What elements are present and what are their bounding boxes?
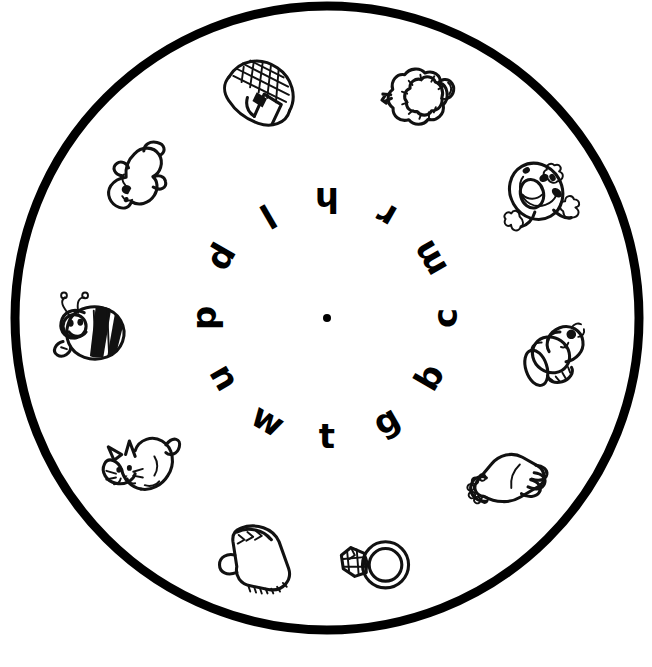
picture-lamb: [366, 39, 477, 150]
spinner-wheel[interactable]: hrmcbgtwndpl: [0, 0, 652, 667]
cat-icon: [91, 418, 187, 514]
letter-c: c: [425, 298, 465, 338]
ring-icon: [326, 513, 422, 609]
picture-ring: [326, 513, 422, 609]
letter-h: h: [307, 180, 347, 220]
center-pivot-dot: [323, 314, 331, 322]
letter-t: t: [307, 416, 347, 456]
lamb-icon: [366, 39, 477, 150]
bee-icon: [40, 282, 136, 378]
picture-cat: [91, 418, 187, 514]
mitten-icon: [208, 509, 304, 605]
picture-bee: [40, 282, 136, 378]
picture-mitten: [208, 509, 304, 605]
letter-d: d: [189, 298, 229, 338]
